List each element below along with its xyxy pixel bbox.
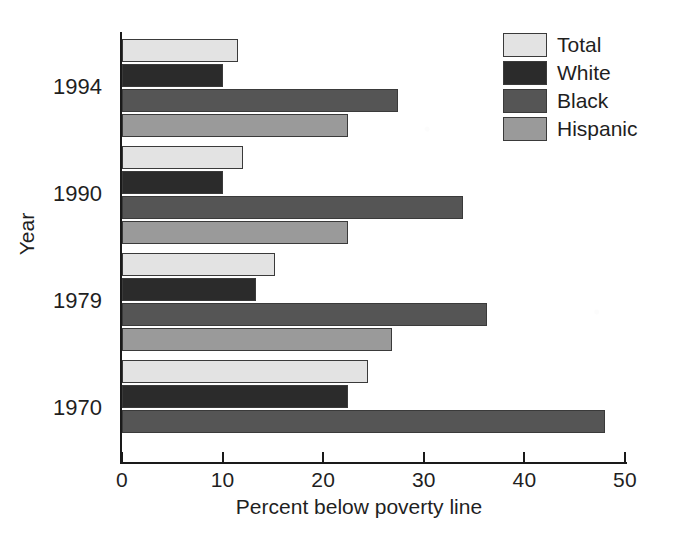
y-tick-label-1994: 1994 xyxy=(0,74,112,100)
legend-swatch-total xyxy=(503,33,547,57)
x-tick-50 xyxy=(624,452,626,463)
x-axis-title: Percent below poverty line xyxy=(0,495,678,519)
bar-white-1979 xyxy=(122,278,256,301)
legend-label-black: Black xyxy=(557,89,608,113)
bar-hispanic-1990 xyxy=(122,221,348,244)
bar-white-1994 xyxy=(122,64,223,87)
x-tick-label-40: 40 xyxy=(494,468,554,492)
bar-black-1970 xyxy=(122,410,605,433)
x-tick-label-20: 20 xyxy=(293,468,353,492)
bar-total-1970 xyxy=(122,360,368,383)
poverty-bar-chart: 01020304050 1994199019791970 Percent bel… xyxy=(0,0,678,538)
legend-swatch-black xyxy=(503,89,547,113)
bar-white-1990 xyxy=(122,171,223,194)
x-tick-10 xyxy=(222,452,224,463)
bar-hispanic-1979 xyxy=(122,328,392,351)
x-tick-label-0: 0 xyxy=(92,468,152,492)
x-tick-label-30: 30 xyxy=(394,468,454,492)
legend-item-white: White xyxy=(503,59,673,86)
legend-label-white: White xyxy=(557,61,611,85)
x-tick-30 xyxy=(423,452,425,463)
bar-black-1990 xyxy=(122,196,463,219)
y-tick-label-1979: 1979 xyxy=(0,288,112,314)
bar-black-1979 xyxy=(122,303,487,326)
legend-item-black: Black xyxy=(503,87,673,114)
x-tick-0 xyxy=(121,452,123,463)
x-tick-40 xyxy=(523,452,525,463)
bar-hispanic-1994 xyxy=(122,114,348,137)
bar-white-1970 xyxy=(122,385,348,408)
legend-item-hispanic: Hispanic xyxy=(503,115,673,142)
x-tick-label-10: 10 xyxy=(193,468,253,492)
legend-swatch-hispanic xyxy=(503,117,547,141)
bar-total-1990 xyxy=(122,146,243,169)
bar-total-1994 xyxy=(122,39,238,62)
legend-item-total: Total xyxy=(503,31,673,58)
bar-black-1994 xyxy=(122,89,398,112)
legend-label-hispanic: Hispanic xyxy=(557,117,638,141)
y-tick-label-1970: 1970 xyxy=(0,395,112,421)
legend-label-total: Total xyxy=(557,33,601,57)
legend-swatch-white xyxy=(503,61,547,85)
x-tick-20 xyxy=(322,452,324,463)
bar-total-1979 xyxy=(122,253,275,276)
x-tick-label-50: 50 xyxy=(595,468,655,492)
x-axis-line xyxy=(120,462,627,464)
chart-legend: TotalWhiteBlackHispanic xyxy=(503,31,673,143)
y-axis-title: Year xyxy=(15,199,39,269)
